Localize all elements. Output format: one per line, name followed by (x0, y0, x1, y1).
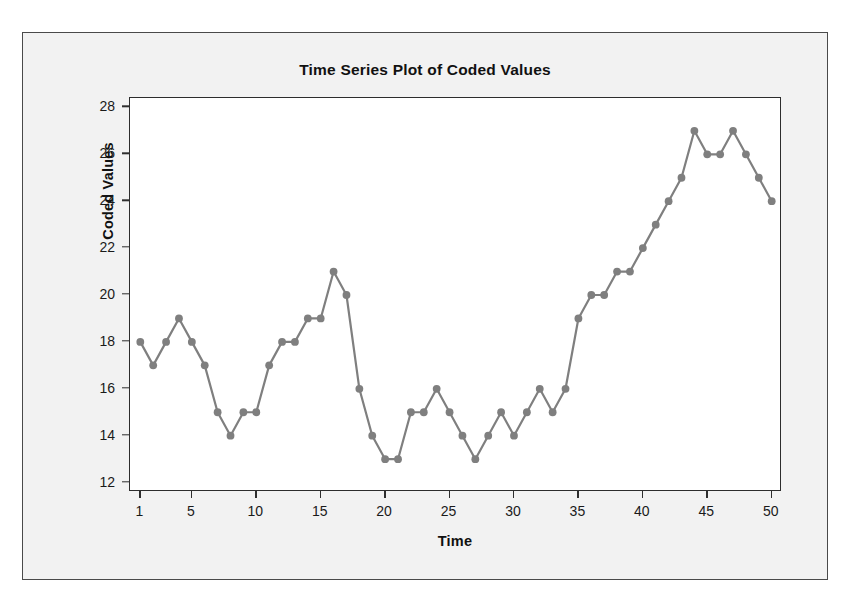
data-point-marker (587, 291, 595, 299)
data-point-marker (446, 408, 454, 416)
x-tick-label: 20 (364, 503, 404, 519)
data-point-marker (768, 197, 776, 205)
x-tick-label: 15 (300, 503, 340, 519)
x-tick-mark (255, 491, 256, 498)
x-tick-mark (771, 491, 772, 498)
data-point-marker (278, 338, 286, 346)
data-point-marker (227, 432, 235, 440)
x-tick-mark (513, 491, 514, 498)
data-point-marker (484, 432, 492, 440)
x-tick-mark (320, 491, 321, 498)
data-point-marker (459, 432, 467, 440)
data-point-marker (703, 150, 711, 158)
chart-title: Time Series Plot of Coded Values (23, 61, 827, 79)
y-tick-mark (122, 293, 129, 294)
y-tick-mark (122, 153, 129, 154)
time-series-line (130, 98, 782, 492)
data-point-marker (497, 408, 505, 416)
data-point-marker (420, 408, 428, 416)
data-point-marker (729, 127, 737, 135)
x-tick-mark (449, 491, 450, 498)
data-point-marker (536, 385, 544, 393)
y-tick-label: 28 (75, 98, 115, 114)
data-point-marker (136, 338, 144, 346)
data-point-marker (149, 361, 157, 369)
y-tick-label: 20 (75, 286, 115, 302)
data-point-marker (523, 408, 531, 416)
data-point-marker (626, 268, 634, 276)
data-point-marker (343, 291, 351, 299)
x-tick-mark (577, 491, 578, 498)
data-point-marker (471, 455, 479, 463)
data-point-marker (304, 315, 312, 323)
data-point-marker (755, 174, 763, 182)
y-tick-label: 12 (75, 474, 115, 490)
data-point-marker (368, 432, 376, 440)
data-point-marker (678, 174, 686, 182)
page-text-fragment (22, 0, 442, 14)
y-tick-label: 18 (75, 333, 115, 349)
data-point-marker (407, 408, 415, 416)
y-tick-mark (122, 481, 129, 482)
data-point-marker (716, 150, 724, 158)
data-point-marker (317, 315, 325, 323)
y-tick-label: 22 (75, 239, 115, 255)
data-point-marker (252, 408, 260, 416)
y-tick-mark (122, 387, 129, 388)
x-tick-mark (642, 491, 643, 498)
data-point-marker (742, 150, 750, 158)
y-tick-label: 14 (75, 427, 115, 443)
y-tick-label: 24 (75, 192, 115, 208)
x-tick-label: 30 (493, 503, 533, 519)
x-tick-mark (139, 491, 140, 498)
y-tick-mark (122, 434, 129, 435)
data-point-marker (188, 338, 196, 346)
plot-area (129, 97, 781, 491)
x-tick-mark (384, 491, 385, 498)
x-tick-label: 1 (119, 503, 159, 519)
data-point-marker (549, 408, 557, 416)
x-tick-label: 25 (429, 503, 469, 519)
x-tick-mark (706, 491, 707, 498)
data-point-marker (652, 221, 660, 229)
y-axis-title: Coded Values (100, 96, 116, 286)
x-tick-label: 10 (235, 503, 275, 519)
y-tick-mark (122, 340, 129, 341)
x-tick-label: 35 (557, 503, 597, 519)
data-point-marker (510, 432, 518, 440)
data-point-marker (665, 197, 673, 205)
x-tick-label: 50 (751, 503, 791, 519)
x-tick-label: 40 (622, 503, 662, 519)
data-point-marker (214, 408, 222, 416)
figure-frame: Time Series Plot of Coded Values Coded V… (22, 32, 828, 580)
data-point-marker (162, 338, 170, 346)
data-point-marker (613, 268, 621, 276)
data-point-marker (600, 291, 608, 299)
data-point-marker (291, 338, 299, 346)
x-axis-title: Time (129, 533, 781, 549)
y-tick-label: 16 (75, 380, 115, 396)
data-point-marker (433, 385, 441, 393)
y-tick-mark (122, 106, 129, 107)
data-point-marker (575, 315, 583, 323)
data-point-marker (175, 315, 183, 323)
x-tick-label: 45 (686, 503, 726, 519)
data-point-marker (239, 408, 247, 416)
y-tick-label: 26 (75, 145, 115, 161)
data-point-marker (639, 244, 647, 252)
x-tick-label: 5 (171, 503, 211, 519)
data-point-marker (562, 385, 570, 393)
data-point-marker (394, 455, 402, 463)
x-tick-mark (191, 491, 192, 498)
y-tick-mark (122, 246, 129, 247)
data-point-marker (381, 455, 389, 463)
y-tick-mark (122, 199, 129, 200)
data-point-marker (355, 385, 363, 393)
data-point-marker (201, 361, 209, 369)
data-point-marker (265, 361, 273, 369)
data-point-marker (330, 268, 338, 276)
data-point-marker (690, 127, 698, 135)
series-line (140, 131, 771, 459)
